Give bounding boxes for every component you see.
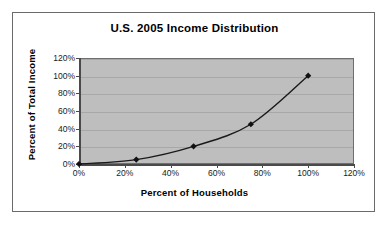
- chart-screenshot: U.S. 2005 Income Distribution 120% 100% …: [0, 0, 388, 228]
- chart-frame: U.S. 2005 Income Distribution 120% 100% …: [12, 12, 375, 212]
- data-point: [190, 143, 196, 149]
- data-point: [133, 156, 139, 162]
- data-series: [13, 13, 376, 213]
- data-point: [76, 161, 82, 167]
- series-line: [79, 76, 308, 164]
- series-markers: [76, 73, 311, 168]
